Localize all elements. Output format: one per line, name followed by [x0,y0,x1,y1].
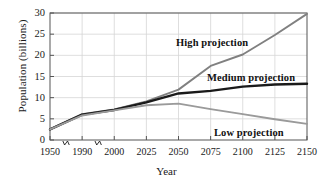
x-tick-label: 2100 [226,147,260,157]
population-projection-chart: Population (billions) Year 051015202530 … [0,0,333,186]
y-tick-label: 10 [23,93,45,103]
x-tick-label: 2150 [290,147,324,157]
y-tick-label: 15 [23,72,45,82]
axis-break-marks [63,141,102,145]
series-annotation: High projection [176,37,248,48]
y-tick-label: 30 [23,8,45,18]
y-tick-label: 25 [23,29,45,39]
y-tick-label: 5 [23,114,45,124]
axis-break-zigzag [95,141,101,145]
series-annotation: Medium projection [207,72,295,83]
x-tick-label: 2000 [97,147,131,157]
x-tick-label: 2075 [194,147,228,157]
x-tick-label: 2025 [129,147,163,157]
axis-break-zigzag [63,141,69,145]
y-tick-label: 0 [23,135,45,145]
x-tick-label: 2050 [162,147,196,157]
series-annotation: Low projection [214,127,284,138]
y-tick-label: 20 [23,50,45,60]
x-tick-label: 1990 [65,147,99,157]
x-tick-label: 2125 [258,147,292,157]
x-tick-label: 1950 [33,147,67,157]
plot-area [0,0,333,186]
